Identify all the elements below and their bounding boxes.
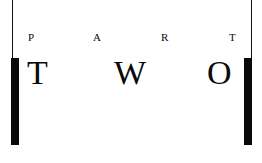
- part-letter-r: R: [161, 31, 168, 43]
- right-rule-thin: [251, 0, 252, 58]
- part-letter-a: A: [93, 31, 101, 43]
- part-letter-t: T: [229, 31, 236, 43]
- right-rule-thick: [244, 58, 252, 145]
- number-letter-w: W: [114, 56, 146, 90]
- left-rule-thick: [11, 58, 19, 145]
- left-rule-thin: [12, 0, 13, 58]
- part-letter-p: P: [28, 31, 34, 43]
- number-letter-o: O: [207, 56, 232, 90]
- number-letter-t: T: [27, 56, 48, 90]
